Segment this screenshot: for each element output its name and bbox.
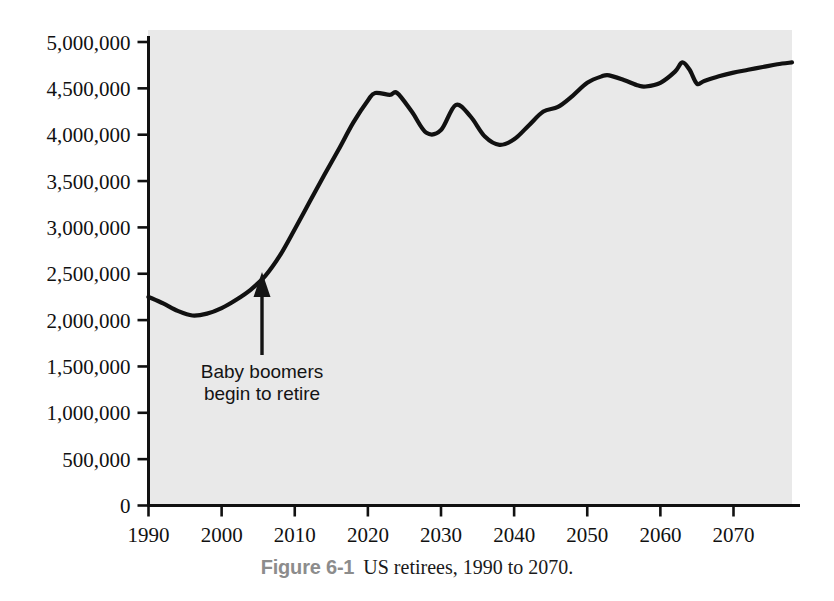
y-axis-tick-label: 2,000,000: [47, 309, 131, 333]
caption-title-text: US retirees, 1990 to 2070.: [363, 556, 573, 578]
x-axis-tick-label: 1990: [128, 523, 170, 547]
plot-area-background: [148, 30, 792, 505]
x-axis-ticks: 199020002010202020302040205020602070: [128, 506, 755, 547]
caption-figure-number: Figure 6-1: [261, 556, 355, 578]
annotation-line-1: Baby boomers: [201, 361, 324, 382]
y-axis-tick-label: 5,000,000: [47, 31, 131, 55]
line-chart: 5,000,0004,500,0004,000,0003,500,0003,00…: [0, 0, 834, 601]
y-axis-tick-label: 4,500,000: [47, 77, 131, 101]
y-axis-tick-label: 2,500,000: [47, 262, 131, 286]
figure-caption: Figure 6-1US retirees, 1990 to 2070.: [0, 556, 834, 579]
y-axis-tick-label: 0: [120, 494, 131, 518]
x-axis-tick-label: 2070: [713, 523, 755, 547]
y-axis-tick-label: 1,500,000: [47, 355, 131, 379]
x-axis-tick-label: 2020: [347, 523, 389, 547]
y-axis-tick-label: 1,000,000: [47, 401, 131, 425]
y-axis-ticks: 5,000,0004,500,0004,000,0003,500,0003,00…: [47, 31, 149, 519]
y-axis-tick-label: 500,000: [62, 448, 130, 472]
x-axis-tick-label: 2040: [493, 523, 535, 547]
x-axis-tick-label: 2030: [420, 523, 462, 547]
figure-container: 5,000,0004,500,0004,000,0003,500,0003,00…: [0, 0, 834, 601]
y-axis-tick-label: 3,000,000: [47, 216, 131, 240]
x-axis-tick-label: 2010: [274, 523, 316, 547]
y-axis-tick-label: 4,000,000: [47, 123, 131, 147]
x-axis-tick-label: 2060: [639, 523, 681, 547]
x-axis-tick-label: 2000: [201, 523, 243, 547]
x-axis-tick-label: 2050: [566, 523, 608, 547]
y-axis-tick-label: 3,500,000: [47, 170, 131, 194]
annotation-line-2: begin to retire: [204, 383, 320, 404]
